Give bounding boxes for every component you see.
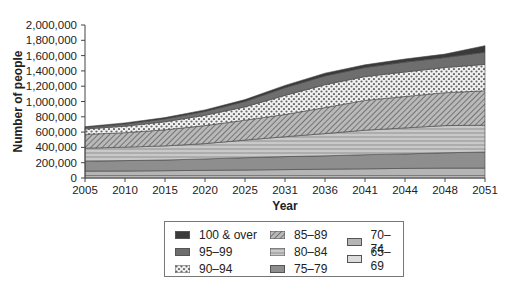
chart-areas bbox=[85, 46, 485, 178]
y-tick-label: 1,400,000 bbox=[26, 65, 77, 77]
swatch-icon bbox=[270, 231, 285, 239]
y-tick-label: 0 bbox=[71, 172, 77, 184]
x-tick-label: 2051 bbox=[472, 184, 498, 196]
swatch-icon bbox=[270, 248, 285, 256]
legend-label: 65–69 bbox=[371, 245, 403, 273]
x-tick-label: 2005 bbox=[72, 184, 98, 196]
y-tick-label: 800,000 bbox=[35, 111, 77, 123]
y-tick-label: 600,000 bbox=[35, 126, 77, 138]
y-tick-label: 2,000,000 bbox=[26, 19, 77, 31]
swatch-icon bbox=[175, 231, 190, 239]
swatch-icon bbox=[175, 248, 190, 256]
x-tick-label: 2044 bbox=[392, 184, 418, 196]
x-tick-label: 2036 bbox=[312, 184, 338, 196]
legend-item-95-99: 95–99 bbox=[175, 245, 232, 259]
legend-item-100-over: 100 & over bbox=[175, 228, 257, 242]
x-tick-label: 2015 bbox=[152, 184, 178, 196]
y-tick-label: 1,000,000 bbox=[26, 96, 77, 108]
y-tick-label: 400,000 bbox=[35, 141, 77, 153]
stacked-area-chart: 0200,000400,000600,000800,0001,000,0001,… bbox=[0, 0, 507, 220]
legend-label: 85–89 bbox=[294, 228, 327, 242]
legend-item-85-89: 85–89 bbox=[270, 228, 327, 242]
swatch-icon bbox=[347, 255, 362, 263]
legend: 100 & over 95–99 90–94 85–89 80–84 75–79… bbox=[164, 221, 404, 277]
x-tick-label: 2041 bbox=[352, 184, 378, 196]
y-tick-label: 1,800,000 bbox=[26, 34, 77, 46]
swatch-icon bbox=[175, 265, 190, 273]
y-tick-label: 1,200,000 bbox=[26, 80, 77, 92]
legend-item-80-84: 80–84 bbox=[270, 245, 327, 259]
legend-item-90-94: 90–94 bbox=[175, 262, 232, 276]
legend-item-75-79: 75–79 bbox=[270, 262, 327, 276]
legend-label: 80–84 bbox=[294, 245, 327, 259]
y-tick-label: 1,600,000 bbox=[26, 50, 77, 62]
x-axis-title: Year bbox=[272, 199, 298, 213]
y-tick-label: 200,000 bbox=[35, 157, 77, 169]
x-tick-label: 2048 bbox=[432, 184, 458, 196]
legend-label: 95–99 bbox=[199, 245, 232, 259]
legend-label: 75–79 bbox=[294, 262, 327, 276]
legend-label: 100 & over bbox=[199, 228, 257, 242]
x-tick-label: 2031 bbox=[272, 184, 298, 196]
legend-item-65-69: 65–69 bbox=[347, 245, 403, 273]
y-axis-title: Number of people bbox=[11, 50, 25, 152]
swatch-icon bbox=[270, 265, 285, 273]
x-tick-label: 2025 bbox=[232, 184, 258, 196]
x-tick-label: 2020 bbox=[192, 184, 218, 196]
legend-label: 90–94 bbox=[199, 262, 232, 276]
x-tick-label: 2010 bbox=[112, 184, 138, 196]
